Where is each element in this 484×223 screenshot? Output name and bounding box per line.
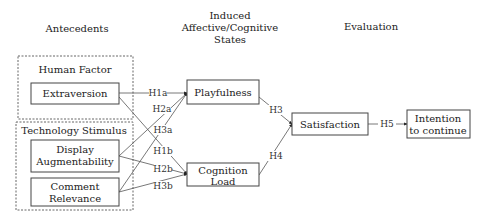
header-evaluation: Evaluation [344,21,399,32]
header-antecedents: Antecedents [44,23,108,34]
hypothesis-label-h2a: H2a [153,104,173,114]
node-satisfaction: Satisfaction [292,113,368,135]
node-intention-to-continue: Intention to continue [407,110,470,138]
node-cognition-label-line2: Load [210,176,236,187]
edge-h4 [259,124,292,175]
header-induced-line1: Induced [209,10,251,21]
node-playfulness-label: Playfulness [194,87,252,98]
node-cognition-load: Cognition Load [187,163,259,187]
node-extraversion: Extraversion [31,83,119,104]
hypothesis-label-h3a: H3a [154,125,174,135]
node-satisfaction-label: Satisfaction [300,119,361,130]
hypothesis-label-h5: H5 [380,119,394,129]
hypothesis-label-h3: H3 [269,105,283,115]
node-comment-label-line2: Relevance [49,193,101,204]
hypothesis-label-h1b: H1b [153,146,173,156]
node-playfulness: Playfulness [187,80,259,104]
hypothesis-labels: H1aH2aH3aH1bH2bH3bH3H4H5 [149,88,396,191]
node-cognition-label-line1: Cognition [198,165,248,176]
node-intention-label-line1: Intention [415,113,462,124]
node-comment-label-line1: Comment [50,181,99,192]
node-comment-relevance: Comment Relevance [31,178,119,206]
header-induced-line3: States [214,34,246,45]
node-intention-label-line2: to continue [409,125,466,136]
header-induced-line2: Affective/Cognitive [181,22,278,33]
hypothesis-label-h4: H4 [269,151,283,161]
hypothesis-label-h1a: H1a [149,88,169,98]
hypothesis-label-h3b: H3b [153,181,173,191]
hypothesis-label-h2b: H2b [153,164,173,174]
group-technology-stimulus-label: Technology Stimulus [21,125,127,136]
node-display-augmentability: Display Augmentability [31,140,119,172]
node-display-label-line1: Display [56,144,94,155]
group-human-factor-label: Human Factor [39,64,112,75]
node-extraversion-label: Extraversion [43,88,108,99]
node-display-label-line2: Augmentability [35,156,114,167]
research-model-diagram: Antecedents Induced Affective/Cognitive … [0,0,484,223]
